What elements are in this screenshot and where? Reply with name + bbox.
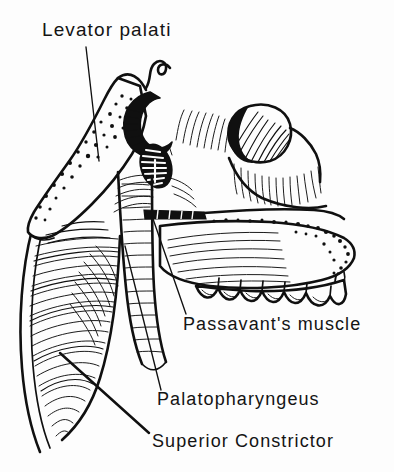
pharyngeal-wall-hatching xyxy=(234,164,321,206)
anatomical-figure: Levator palati Passavant's muscle Palato… xyxy=(0,0,394,472)
nasopharynx-hatching xyxy=(176,110,230,152)
label-palatopharyngeus: Palatopharyngeus xyxy=(157,389,320,409)
passavant-ridge xyxy=(144,209,344,219)
torus-tubarius xyxy=(228,105,291,164)
superior-constrictor-muscle xyxy=(20,230,120,452)
label-superior-constrictor: Superior Constrictor xyxy=(152,431,334,451)
label-passavants-muscle: Passavant's muscle xyxy=(183,314,361,334)
soft-palate xyxy=(160,218,355,290)
constrictor-hatching xyxy=(30,238,119,436)
palatopharyngeus-muscle xyxy=(118,172,166,370)
passavant-band xyxy=(144,210,206,219)
sphenoid-bone-plate xyxy=(28,78,146,240)
palatopharyngeus-striations xyxy=(122,184,162,352)
label-levator-palati: Levator palati xyxy=(42,19,171,40)
